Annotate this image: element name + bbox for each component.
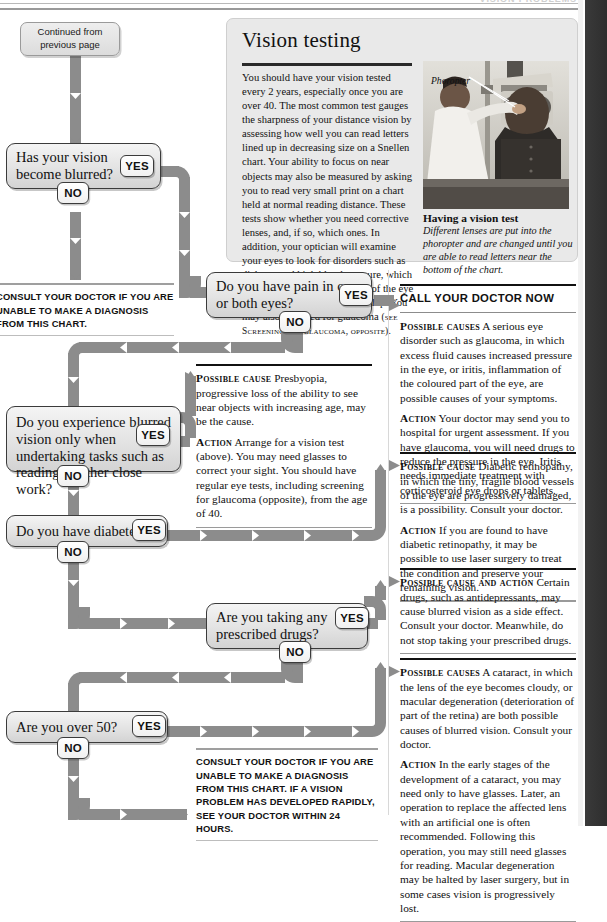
answer-yes-q3[interactable]: YES <box>136 424 170 446</box>
lead-label: Action <box>400 524 436 536</box>
advice-consult-bottom: Consult your doctor if you are unable to… <box>196 748 378 841</box>
rule <box>400 568 576 570</box>
phoropter-label: Phoropter <box>431 75 470 86</box>
lead-label: Possible cause <box>400 460 475 472</box>
body-text: Arrange for a vision test (above). You m… <box>196 436 367 520</box>
presbyopia-cause: Possible cause Presbyopia, progressive l… <box>196 371 372 428</box>
answer-no-q4[interactable]: NO <box>57 541 89 563</box>
connector-q5-yes-up <box>375 586 386 600</box>
start-node-line2: previous page <box>40 39 100 50</box>
rule <box>400 658 576 660</box>
rule <box>196 748 378 750</box>
lead-label: Possible causes <box>400 320 480 332</box>
consult-bottom-text: Consult your doctor if you are unable to… <box>196 755 378 835</box>
call-doctor-cause: Possible causes A serious eye disorder s… <box>400 319 576 405</box>
rule <box>196 527 372 528</box>
answer-no-q1[interactable]: NO <box>57 182 89 204</box>
start-node-continued[interactable]: Continued from previous page <box>20 22 120 56</box>
connector-q2-no-left <box>79 342 285 353</box>
start-node-line1: Continued from <box>38 26 103 37</box>
connector-q1-yes-down <box>179 177 190 287</box>
connector-arrowhead <box>375 662 386 670</box>
connector-q6-no-right <box>79 809 187 820</box>
connector-arrowhead <box>375 464 386 472</box>
header-rule-thick <box>0 8 578 10</box>
answer-yes-q5[interactable]: YES <box>335 607 369 629</box>
column-divider <box>388 270 389 815</box>
cataract-cause: Possible causes A cataract, in which the… <box>400 665 576 751</box>
rule <box>0 335 174 336</box>
page-header-title: VISION PROBLEMS <box>377 0 577 4</box>
rule <box>0 283 174 285</box>
question-text: Are you over 50? <box>16 719 117 736</box>
call-doctor-heading: CALL YOUR DOCTOR NOW <box>400 291 576 305</box>
page-edge-shadow <box>583 0 607 826</box>
advice-consult-left: Consult your doctor if you are unable to… <box>0 283 174 336</box>
panel-title: Vision testing <box>242 28 361 53</box>
connector-q1-no <box>70 212 81 280</box>
lead-label: Possible cause and action <box>400 576 534 588</box>
body-text: A serious eye disorder such as glaucoma,… <box>400 320 572 404</box>
body-text: In the early stages of the development o… <box>400 758 569 913</box>
lead-label: Action <box>196 436 232 448</box>
answer-no-q6[interactable]: NO <box>57 737 89 759</box>
lead-label: Action <box>400 412 436 424</box>
question-text: Do you have diabetes? <box>16 523 148 540</box>
vision-testing-panel: Vision testing You should have your visi… <box>226 18 578 262</box>
answer-yes-q1[interactable]: YES <box>120 155 154 177</box>
connector-arrowhead <box>375 580 386 588</box>
connector-start-down <box>70 56 81 144</box>
answer-yes-q4[interactable]: YES <box>132 519 166 541</box>
retinopathy-cause: Possible cause Diabetic retinopathy, in … <box>400 459 576 516</box>
answer-no-q3[interactable]: NO <box>57 465 89 487</box>
rule <box>196 840 378 841</box>
presbyopia-action: Action Arrange for a vision test (above)… <box>196 435 372 521</box>
panel-title-rule <box>242 63 412 66</box>
advice-prescribed-drugs: Possible cause and action Certain drugs,… <box>400 568 576 654</box>
rule <box>400 284 576 286</box>
photo-caption-body: Different lenses are put into the phorop… <box>423 225 575 276</box>
drugs-cause: Possible cause and action Certain drugs,… <box>400 575 576 647</box>
start-node-text: Continued from previous page <box>38 26 103 52</box>
bullet-arrow-icon <box>389 460 400 471</box>
rule <box>400 312 576 313</box>
photo-caption-title: Having a vision test <box>423 212 573 224</box>
consult-left-text: Consult your doctor if you are unable to… <box>0 290 174 330</box>
answer-yes-q6[interactable]: YES <box>132 715 166 737</box>
connector-q5-no-left <box>79 672 285 683</box>
rule <box>400 452 576 454</box>
connector-q4-yes-up <box>375 470 386 514</box>
answer-no-q5[interactable]: NO <box>279 641 311 663</box>
cataract-action: Action In the early stages of the develo… <box>400 757 576 915</box>
answer-yes-q2[interactable]: YES <box>339 284 373 306</box>
bullet-arrow-icon <box>389 576 400 587</box>
advice-presbyopia: Possible cause Presbyopia, progressive l… <box>196 364 372 528</box>
lead-label: Action <box>400 758 436 770</box>
connector-q4-yes <box>158 530 368 541</box>
connector-q6-yes-up <box>375 668 386 710</box>
lead-label: Possible cause <box>196 372 271 384</box>
rule <box>400 653 576 654</box>
connector-q6-yes <box>158 726 370 737</box>
bullet-arrow-icon <box>389 666 400 677</box>
connector-q4-no-right <box>79 618 209 629</box>
body-text: A cataract, in which the lens of the eye… <box>400 666 574 750</box>
answer-no-q2[interactable]: NO <box>279 311 311 333</box>
lead-label: Possible causes <box>400 666 480 678</box>
rule <box>196 364 372 366</box>
advice-cataract: Possible causes A cataract, in which the… <box>400 658 576 922</box>
